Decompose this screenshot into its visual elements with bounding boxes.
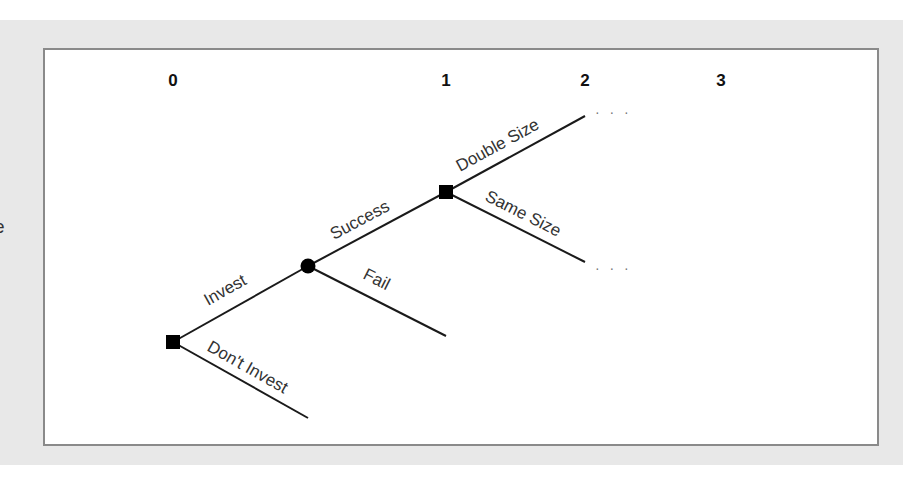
period-label-0: 0	[168, 71, 177, 90]
decision-node-expand	[439, 185, 453, 199]
period-label-3: 3	[716, 71, 725, 90]
decision-tree: 0 1 2 3 Invest Don't Invest Success Fail…	[0, 0, 918, 480]
continuation-dots-double: · · ·	[595, 104, 632, 120]
period-label-1: 1	[441, 71, 450, 90]
branch-label-fail: Fail	[360, 265, 393, 294]
period-label-2: 2	[580, 71, 589, 90]
branch-label-double-size: Double Size	[453, 115, 543, 176]
branch-label-same-size: Same Size	[482, 187, 564, 241]
decision-node-invest	[166, 335, 180, 349]
branch-label-success: Success	[327, 196, 393, 243]
chance-node-outcome	[301, 259, 316, 274]
continuation-dots-same: · · ·	[595, 260, 632, 276]
